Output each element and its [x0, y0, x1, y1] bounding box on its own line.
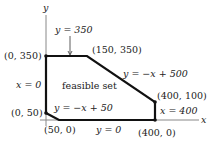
vertex-dot [44, 54, 48, 58]
vertex-label-400-100: (400, 100) [157, 90, 207, 101]
constraint-label-x400: x = 400 [160, 105, 198, 116]
vertex-label-0-350: (0, 350) [4, 50, 42, 61]
constraint-label-x0: x = 0 [16, 79, 41, 90]
constraint-label-y-neg-x-50: y = −x + 50 [53, 102, 113, 113]
vertex-label-50-0: (50, 0) [44, 124, 76, 135]
feasible-region-diagram: y x y = 350 y = −x + 500 x = 400 y = 0 y… [0, 0, 208, 141]
x-axis-label: x [201, 114, 207, 125]
vertex-dot [44, 111, 48, 115]
y-axis-label: y [42, 2, 49, 13]
vertex-label-0-50: (0, 50) [11, 107, 43, 118]
region-label: feasible set [62, 80, 117, 91]
vertex-label-400-0: (400, 0) [138, 127, 176, 138]
vertex-label-150-350: (150, 350) [92, 44, 142, 55]
vertex-dot [153, 118, 157, 122]
constraint-label-y-neg-x-500: y = −x + 500 [122, 68, 188, 79]
constraint-label-y0: y = 0 [95, 124, 121, 135]
constraint-label-y350: y = 350 [54, 24, 93, 35]
